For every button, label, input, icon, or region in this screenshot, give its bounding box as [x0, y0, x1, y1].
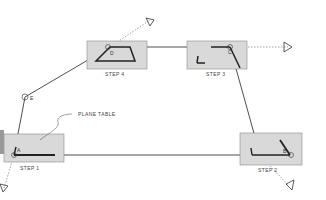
eye-icon	[286, 180, 294, 190]
eye-icon	[146, 18, 154, 26]
step1-label: STEP 1	[20, 165, 40, 171]
station-d-label: D	[110, 50, 114, 56]
table-board	[87, 41, 147, 69]
station-e-label: E	[30, 95, 34, 101]
plane-table-step3: C STEP 3	[187, 41, 247, 77]
drawn-line-tick	[251, 148, 252, 155]
station-c-label: C	[228, 49, 232, 55]
step2-label: STEP 2	[258, 167, 278, 173]
callout-text: PLANE TABLE	[78, 111, 116, 117]
table-edge	[0, 130, 4, 154]
eye-icon	[0, 184, 8, 192]
table-board	[4, 134, 64, 162]
step4-label: STEP 4	[105, 71, 125, 77]
plane-table-step1: A STEP 1	[0, 130, 64, 171]
table-board	[240, 133, 302, 165]
plane-table-step2: B STEP 2	[240, 133, 302, 173]
drawn-line-a	[197, 56, 198, 63]
plane-table-step4: D STEP 4	[87, 41, 147, 77]
step3-label: STEP 3	[206, 71, 226, 77]
plane-table-diagram: A STEP 1 D STEP 4 C STEP 3 B STEP 2 E	[0, 0, 326, 200]
